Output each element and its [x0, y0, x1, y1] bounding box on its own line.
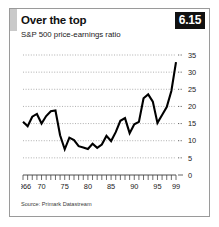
y-axis-tick-label: 25	[188, 85, 196, 94]
y-axis-tick-label: 35	[188, 51, 196, 60]
y-axis-tick-label: 30	[188, 68, 196, 77]
source-note: Source: Primark Datastream	[21, 201, 92, 207]
x-axis-tick-label: 85	[107, 182, 115, 191]
x-axis-minor-ticks	[23, 175, 176, 180]
x-axis-tick-label: 1966	[21, 182, 31, 191]
x-axis-tick-label: 80	[84, 182, 92, 191]
y-axis-tick-label: 15	[188, 119, 196, 128]
y-axis-tick-label: 20	[188, 102, 196, 111]
series-line-sp500-pe	[23, 62, 176, 149]
accent-bar	[10, 9, 17, 31]
x-axis-tick-label: 90	[130, 182, 138, 191]
y-axis-tick-label: 10	[188, 136, 196, 145]
y-axis-tick-label: 0	[188, 171, 192, 180]
y-axis-tick-label: 5	[188, 154, 192, 163]
plot-area: 35302520151050 196670758085909599	[21, 49, 207, 199]
figure-number-badge: 6.15	[175, 12, 205, 29]
y-axis-ticks	[178, 55, 183, 175]
x-axis-tick-label: 70	[37, 182, 45, 191]
chart-subtitle: S&P 500 price-earnings ratio	[21, 29, 205, 40]
x-axis-tick-label: 95	[153, 182, 161, 191]
x-axis-tick-label: 75	[61, 182, 69, 191]
x-axis-labels: 196670758085909599	[21, 182, 180, 191]
line-chart-svg: 35302520151050 196670758085909599	[21, 49, 207, 199]
y-axis-labels: 35302520151050	[188, 51, 196, 180]
chart-figure: Over the top S&P 500 price-earnings rati…	[9, 8, 210, 217]
x-axis-tick-label: 99	[172, 182, 180, 191]
